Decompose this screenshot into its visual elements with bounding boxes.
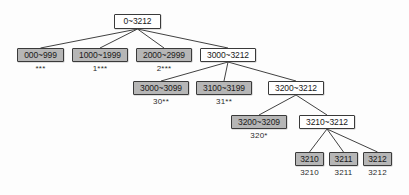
tree-node-label: 3000~3212 — [207, 51, 249, 60]
tree-node-root[interactable]: 0~3212 — [114, 14, 161, 29]
tree-node-sublabel-n1000_1999: 1*** — [70, 65, 130, 73]
tree-node-label: 0~3212 — [123, 17, 151, 26]
tree-node-sublabel-n000_999: *** — [11, 65, 71, 73]
tree-node-n3200_3209[interactable]: 3200~3209 — [231, 115, 287, 129]
tree-node-label: 3000~3099 — [140, 84, 182, 93]
tree-edge-root-to-n000_999 — [41, 29, 138, 48]
tree-node-n3212[interactable]: 3212 — [363, 152, 392, 166]
tree-node-label: 000~999 — [24, 51, 57, 60]
tree-node-label: 2000~2999 — [143, 51, 185, 60]
tree-node-n3210_3212[interactable]: 3210~3212 — [299, 115, 355, 129]
tree-node-label: 3210~3212 — [306, 118, 348, 127]
tree-node-n3200_3212[interactable]: 3200~3212 — [268, 81, 324, 95]
tree-edge-n3000_3212-to-n3200_3212 — [228, 62, 296, 81]
tree-node-label: 3100~3199 — [203, 84, 245, 93]
tree-node-n3000_3099[interactable]: 3000~3099 — [133, 81, 189, 95]
tree-node-n1000_1999[interactable]: 1000~1999 — [72, 48, 128, 62]
range-tree-diagram: 0~3212000~999***1000~19991***2000~29992*… — [0, 0, 409, 195]
tree-edge-n3000_3212-to-n3100_3199 — [224, 62, 228, 81]
tree-edge-n3210_3212-to-n3212 — [327, 129, 378, 152]
tree-edge-root-to-n1000_1999 — [100, 29, 138, 48]
tree-node-sublabel-n3100_3199: 31** — [194, 98, 254, 106]
tree-edge-n3210_3212-to-n3210 — [310, 129, 328, 152]
tree-node-label: 3210 — [300, 155, 319, 164]
tree-node-label: 3211 — [335, 155, 353, 164]
tree-node-sublabel-n3000_3099: 30** — [131, 98, 191, 106]
tree-edge-n3210_3212-to-n3211 — [327, 129, 344, 152]
tree-node-label: 1000~1999 — [79, 51, 121, 60]
tree-edge-n3200_3212-to-n3210_3212 — [296, 95, 327, 115]
tree-node-n3100_3199[interactable]: 3100~3199 — [196, 81, 252, 95]
tree-node-label: 3200~3212 — [275, 84, 317, 93]
tree-node-label: 3212 — [368, 155, 387, 164]
tree-node-n3000_3212[interactable]: 3000~3212 — [200, 48, 256, 62]
tree-node-n2000_2999[interactable]: 2000~2999 — [136, 48, 192, 62]
tree-edge-root-to-n3000_3212 — [138, 29, 229, 48]
tree-node-n3211[interactable]: 3211 — [329, 152, 358, 166]
tree-node-n3210[interactable]: 3210 — [295, 152, 324, 166]
tree-node-sublabel-n3200_3209: 320* — [229, 132, 289, 140]
tree-node-sublabel-n3212: 3212 — [348, 169, 408, 177]
tree-node-label: 3200~3209 — [238, 118, 280, 127]
tree-edge-n3200_3212-to-n3200_3209 — [259, 95, 296, 115]
tree-node-n000_999[interactable]: 000~999 — [17, 48, 64, 62]
tree-edge-root-to-n2000_2999 — [138, 29, 165, 48]
tree-node-sublabel-n2000_2999: 2*** — [134, 65, 194, 73]
